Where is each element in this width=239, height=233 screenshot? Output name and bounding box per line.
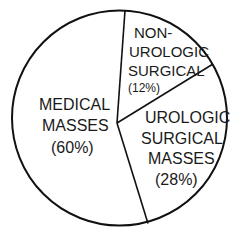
- label-line: MASSES: [42, 117, 109, 134]
- label-line: MEDICAL: [39, 96, 110, 113]
- label-line: MASSES: [148, 150, 215, 167]
- label-line: UROLOGIC: [145, 109, 230, 126]
- label-line: SURGICAL: [128, 62, 205, 79]
- label-line: UROLOGIC: [129, 43, 209, 60]
- label-percent: (12%): [128, 81, 160, 95]
- label-line: NON-: [134, 24, 172, 41]
- pie-chart: NON- UROLOGIC SURGICAL (12%) UROLOGIC SU…: [0, 0, 239, 233]
- label-line: SURGICAL: [141, 130, 223, 147]
- label-percent: (60%): [51, 139, 94, 156]
- label-percent: (28%): [155, 171, 198, 188]
